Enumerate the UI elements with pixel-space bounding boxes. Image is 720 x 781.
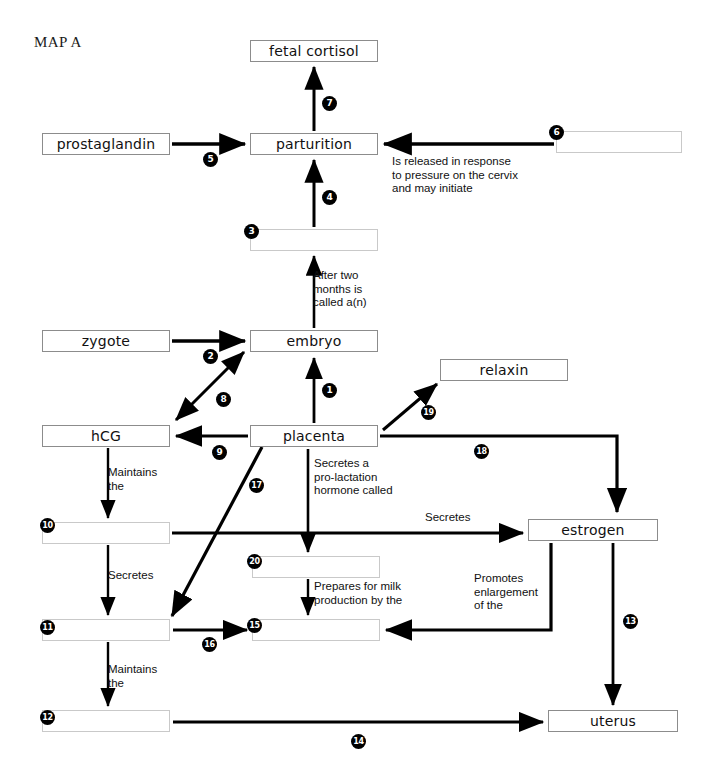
node-blank-11[interactable] <box>42 619 170 641</box>
number-marker-18: 18 <box>474 444 489 459</box>
node-fetal-cortisol[interactable]: fetal cortisol <box>250 40 378 62</box>
number-marker-9: 9 <box>212 445 227 460</box>
number-marker-10: 10 <box>40 518 55 533</box>
node-estrogen[interactable]: estrogen <box>528 519 658 541</box>
number-marker-17: 17 <box>249 478 264 493</box>
number-marker-13: 13 <box>623 614 638 629</box>
number-marker-7: 7 <box>322 96 337 111</box>
node-blank-20[interactable] <box>252 556 380 578</box>
node-placenta[interactable]: placenta <box>250 425 378 447</box>
node-parturition[interactable]: parturition <box>250 133 378 155</box>
edge-label-blank11-maintains: Maintains the <box>108 663 157 690</box>
edge-label-secretes-estrogen: Secretes <box>425 511 470 525</box>
node-blank-12[interactable] <box>42 710 170 732</box>
number-marker-14: 14 <box>351 734 366 749</box>
number-marker-4: 4 <box>322 190 337 205</box>
edge-placenta-to-blank11 <box>172 447 262 616</box>
number-marker-19: 19 <box>421 405 436 420</box>
edge-placenta-to-estrogen <box>380 436 617 512</box>
node-blank-6[interactable] <box>556 131 682 153</box>
concept-map-canvas: MAP A <box>0 0 720 781</box>
number-marker-6: 6 <box>549 125 564 140</box>
node-embryo[interactable]: embryo <box>250 330 378 352</box>
number-marker-5: 5 <box>203 152 218 167</box>
number-marker-3: 3 <box>244 224 259 239</box>
number-marker-1: 1 <box>322 383 337 398</box>
node-prostaglandin[interactable]: prostaglandin <box>42 133 170 155</box>
node-blank-3[interactable] <box>250 229 378 251</box>
number-marker-2: 2 <box>203 349 218 364</box>
edge-label-after-two-months: After two months is called a(n) <box>313 269 367 310</box>
number-marker-8: 8 <box>216 392 231 407</box>
node-hcg[interactable]: hCG <box>42 425 170 447</box>
number-marker-11: 11 <box>40 620 55 635</box>
node-blank-15[interactable] <box>252 619 380 641</box>
edge-label-prepares-milk: Prepares for milk production by the <box>314 580 402 607</box>
edge-label-prolactin-note: Secretes a pro-lactation hormone called <box>314 457 393 498</box>
number-marker-15: 15 <box>247 618 262 633</box>
page-title: MAP A <box>34 34 82 51</box>
node-uterus[interactable]: uterus <box>548 710 678 732</box>
number-marker-12: 12 <box>40 710 55 725</box>
node-blank-10[interactable] <box>42 522 170 544</box>
edge-label-promotes-enlarge: Promotes enlargement of the <box>474 572 538 613</box>
number-marker-20: 20 <box>247 554 262 569</box>
edge-label-cervix-note: Is released in response to pressure on t… <box>392 155 518 196</box>
edge-label-hcg-maintains: Maintains the <box>108 466 157 493</box>
edge-label-blank10-secretes: Secretes <box>108 569 153 583</box>
number-marker-16: 16 <box>202 637 217 652</box>
node-relaxin[interactable]: relaxin <box>440 359 568 381</box>
node-zygote[interactable]: zygote <box>42 330 170 352</box>
